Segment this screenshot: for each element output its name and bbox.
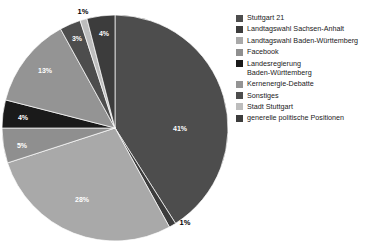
legend-item[interactable]: Kernenergie-Debatte	[236, 79, 384, 88]
legend: Stuttgart 21Landtagswahl Sachsen-AnhaltL…	[236, 13, 384, 125]
pie-chart: 41%1%28%5%4%13%3%1%4% Stuttgart 21Landta…	[0, 0, 385, 246]
legend-item[interactable]: Facebook	[236, 47, 384, 56]
legend-item[interactable]: generelle politische Positionen	[236, 113, 384, 122]
legend-item-label: Facebook	[247, 47, 279, 56]
legend-item-label: generelle politische Positionen	[247, 113, 344, 122]
slice-value-label: 5%	[17, 142, 27, 149]
legend-item[interactable]: Landtagswahl Sachsen-Anhalt	[236, 24, 384, 33]
slice-value-label: 3%	[72, 35, 82, 42]
legend-item-label: Sonstiges	[247, 91, 279, 100]
legend-color-swatch	[236, 37, 243, 44]
slice-value-label: 13%	[38, 67, 52, 74]
legend-item-label: Kernenergie-Debatte	[247, 79, 314, 88]
legend-item-label: Stadt Stuttgart	[247, 102, 293, 111]
slice-value-label: 4%	[18, 114, 28, 121]
legend-color-swatch	[236, 92, 243, 99]
pie-svg	[0, 0, 232, 246]
slice-value-label: 1%	[78, 8, 89, 16]
legend-color-swatch	[236, 115, 243, 122]
legend-item[interactable]: Stadt Stuttgart	[236, 102, 384, 111]
legend-item[interactable]: Landesregierung Baden-Württemberg	[236, 59, 384, 77]
legend-color-swatch	[236, 26, 243, 33]
legend-item-label: Landtagswahl Baden-Württemberg	[247, 36, 358, 45]
legend-color-swatch	[236, 81, 243, 88]
slice-value-label: 4%	[99, 30, 109, 37]
legend-item-label: Stuttgart 21	[247, 13, 284, 22]
legend-item[interactable]: Landtagswahl Baden-Württemberg	[236, 36, 384, 45]
legend-color-swatch	[236, 103, 243, 110]
slice-value-label: 1%	[180, 219, 191, 227]
slice-value-label: 41%	[173, 125, 187, 132]
pie-plot-area: 41%1%28%5%4%13%3%1%4%	[0, 0, 232, 246]
legend-item[interactable]: Sonstiges	[236, 91, 384, 100]
legend-color-swatch	[236, 15, 243, 22]
legend-item-label: Landtagswahl Sachsen-Anhalt	[247, 24, 344, 33]
slice-value-label: 28%	[75, 196, 89, 203]
legend-color-swatch	[236, 49, 243, 56]
legend-color-swatch	[236, 60, 243, 67]
legend-item[interactable]: Stuttgart 21	[236, 13, 384, 22]
legend-item-label: Landesregierung Baden-Württemberg	[247, 59, 312, 77]
